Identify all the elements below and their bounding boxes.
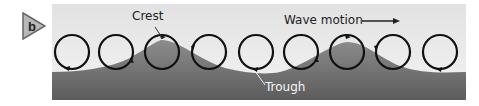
- trough-label: Trough: [265, 80, 305, 94]
- panel-label-badge: b: [22, 12, 46, 40]
- wave-motion-label: Wave motion: [284, 13, 363, 27]
- panel-letter: b: [28, 19, 36, 34]
- wave-diagram: [52, 4, 466, 100]
- crest-label: Crest: [132, 9, 163, 23]
